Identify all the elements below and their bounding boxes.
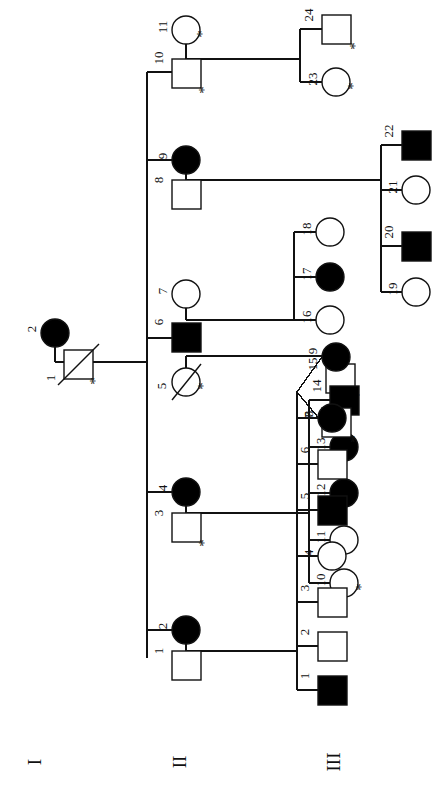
id-label-III-20: 20 xyxy=(381,226,396,239)
id-label-III-4: 4 xyxy=(301,549,316,556)
individual-III-17[interactable] xyxy=(316,263,344,291)
asterisk-III-23: * xyxy=(345,82,361,90)
asterisk-II-5: * xyxy=(195,382,211,390)
generation-label-III: III xyxy=(323,753,344,772)
individual-III-16[interactable] xyxy=(316,306,344,334)
individual-II-4[interactable] xyxy=(172,478,200,506)
individual-III-18[interactable] xyxy=(316,218,344,246)
individual-III-22[interactable] xyxy=(402,131,431,160)
id-label-III-2: 2 xyxy=(297,629,312,636)
individual-III-7[interactable] xyxy=(318,404,346,432)
id-label-II-8: 8 xyxy=(151,177,166,184)
id-label-II-2: 2 xyxy=(155,623,170,630)
individual-II-11[interactable] xyxy=(172,16,200,44)
individual-III-24[interactable] xyxy=(322,15,351,44)
individual-III-19[interactable] xyxy=(402,278,430,306)
id-label-I-2: 2 xyxy=(24,326,39,333)
individual-III-20[interactable] xyxy=(402,232,431,261)
id-label-III-9: 9 xyxy=(305,348,320,355)
id-label-III-1: 1 xyxy=(297,673,312,680)
id-label-III-16: 16 xyxy=(299,310,314,324)
id-label-III-15: 15 xyxy=(305,358,320,371)
id-label-II-1: 1 xyxy=(151,648,166,655)
id-label-III-7: 7 xyxy=(301,411,316,418)
id-label-II-5: 5 xyxy=(154,383,169,390)
id-label-II-7: 7 xyxy=(155,287,170,294)
id-label-III-5: 5 xyxy=(297,493,312,500)
pedigree-chart: 2 1 * 11 * 10 * 9 8 7 6 5 * 4 xyxy=(0,0,439,797)
id-label-III-19: 19 xyxy=(385,283,400,296)
asterisk-III-10: * xyxy=(353,583,369,591)
individual-III-3[interactable] xyxy=(318,588,347,617)
id-label-III-12: 12 xyxy=(313,484,328,497)
individual-III-21[interactable] xyxy=(402,176,430,204)
individual-III-5[interactable] xyxy=(318,496,347,525)
id-label-II-10: 10 xyxy=(151,52,166,65)
id-label-II-6: 6 xyxy=(151,318,166,325)
pedigree-canvas: 2 1 * 11 * 10 * 9 8 7 6 5 * 4 xyxy=(0,0,439,797)
generation-label-I: I xyxy=(24,759,45,765)
individual-III-9[interactable] xyxy=(322,343,350,371)
id-label-II-3: 3 xyxy=(151,510,166,517)
individual-II-6[interactable] xyxy=(172,323,201,352)
id-label-III-3: 3 xyxy=(297,585,312,592)
id-label-II-4: 4 xyxy=(155,484,170,491)
id-label-III-18: 18 xyxy=(299,223,314,236)
id-label-III-22: 22 xyxy=(381,125,396,138)
id-label-III-21: 21 xyxy=(385,181,400,194)
individual-II-10[interactable] xyxy=(172,59,201,88)
asterisk-II-3: * xyxy=(196,539,212,547)
individual-II-2[interactable] xyxy=(172,616,200,644)
id-label-III-23: 23 xyxy=(305,73,320,86)
id-label-III-13: 13 xyxy=(313,438,328,451)
individual-III-4[interactable] xyxy=(318,542,346,570)
asterisk-III-24: * xyxy=(347,42,363,50)
individual-II-8[interactable] xyxy=(172,180,201,209)
individual-III-2[interactable] xyxy=(318,632,347,661)
generation-label-II: II xyxy=(169,756,190,769)
asterisk-I-1: * xyxy=(87,377,103,385)
id-label-III-6: 6 xyxy=(297,446,312,453)
asterisk-II-10: * xyxy=(196,86,212,94)
id-label-II-11: 11 xyxy=(155,21,170,34)
individual-III-1[interactable] xyxy=(318,676,347,705)
id-label-I-1: 1 xyxy=(43,375,58,382)
individual-III-6[interactable] xyxy=(318,450,347,479)
asterisk-II-11: * xyxy=(194,30,210,38)
individual-II-3[interactable] xyxy=(172,513,201,542)
individual-II-1[interactable] xyxy=(172,651,201,680)
asterisk-III-8: * xyxy=(347,435,363,443)
chart-background xyxy=(0,0,439,797)
id-label-III-11: 11 xyxy=(313,531,328,544)
id-label-III-10: 10 xyxy=(313,574,328,587)
id-label-III-14: 14 xyxy=(309,379,324,393)
id-label-III-24: 24 xyxy=(301,8,316,22)
individual-I-2[interactable] xyxy=(41,319,69,347)
id-label-II-9: 9 xyxy=(155,153,170,160)
individual-II-9[interactable] xyxy=(172,146,200,174)
individual-III-23[interactable] xyxy=(322,68,350,96)
id-label-III-17: 17 xyxy=(299,267,314,281)
individual-II-7[interactable] xyxy=(172,280,200,308)
